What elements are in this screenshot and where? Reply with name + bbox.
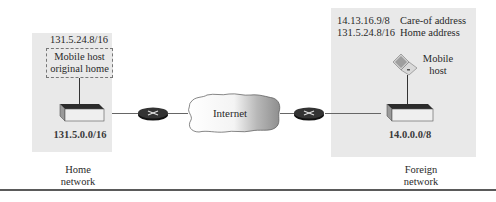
care-of-address: 14.13.16.9/8 xyxy=(337,15,390,27)
foreign-network-address: 14.0.0.0/8 xyxy=(370,129,450,141)
mobile-host-label-line1: Mobile host xyxy=(47,51,112,63)
home-router-icon xyxy=(138,106,170,122)
foreign-switch-icon xyxy=(382,103,434,123)
mobile-host-label-line2: original home xyxy=(47,63,112,75)
link-home-router xyxy=(112,113,139,114)
internet-label: Internet xyxy=(200,107,260,119)
foreign-host-link xyxy=(407,75,408,105)
foreign-network-caption-line1: Foreign xyxy=(381,164,461,176)
home-network-caption-line1: Home xyxy=(38,164,118,176)
home-network-address: 131.5.0.0/16 xyxy=(40,129,120,141)
home-network-caption-line2: network xyxy=(38,176,118,188)
mobile-host-laptop-icon xyxy=(391,52,419,76)
foreign-router-icon xyxy=(294,106,326,122)
mobile-host-label-line2: host xyxy=(418,65,458,77)
link-internet-router xyxy=(280,113,295,114)
foreign-network-caption-line2: network xyxy=(381,176,461,188)
home-address-label: Home address xyxy=(400,27,460,39)
home-switch-icon xyxy=(55,103,105,123)
link-router-foreign xyxy=(325,113,381,114)
home-host-link xyxy=(79,78,80,105)
bottom-divider xyxy=(0,189,496,191)
care-of-address-label: Care-of address xyxy=(400,15,466,27)
foreign-home-address: 131.5.24.8/16 xyxy=(337,27,395,39)
home-mobile-host-address: 131.5.24.8/16 xyxy=(32,34,126,46)
mobile-host-label-line1: Mobile xyxy=(418,53,458,65)
mobile-host-original-home-box: Mobile host original home xyxy=(46,48,113,78)
